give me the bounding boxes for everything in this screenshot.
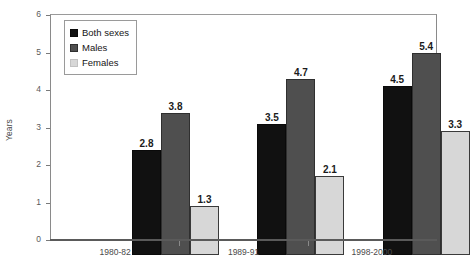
legend-item-label: Females (82, 57, 118, 68)
x-axis-category-label: 1998-2000 (352, 247, 393, 257)
x-axis-category-label: 1989-91 (228, 247, 259, 257)
y-axis-tick-label: 0 (36, 234, 41, 244)
legend-swatch-icon (70, 59, 78, 67)
bar-value-label: 1.3 (198, 194, 212, 205)
bar[interactable]: 2.1 (315, 176, 344, 255)
chart-legend: Both sexesMalesFemales (64, 20, 137, 75)
legend-item[interactable]: Males (70, 40, 132, 55)
bar-value-label: 3.8 (169, 101, 183, 112)
x-axis-tick-mark (308, 241, 309, 246)
bar-value-label: 4.7 (294, 67, 308, 78)
y-axis-tick-label: 6 (36, 9, 41, 19)
bar[interactable]: 1.3 (190, 206, 219, 255)
y-axis-tick-label: 5 (36, 47, 41, 57)
bar[interactable]: 3.8 (161, 113, 190, 256)
bar[interactable]: 2.8 (132, 150, 161, 255)
bar[interactable]: 4.7 (286, 79, 315, 255)
legend-item[interactable]: Females (70, 55, 132, 70)
bar-value-label: 3.5 (265, 112, 279, 123)
bar-value-label: 4.5 (390, 74, 404, 85)
bars-layer: 2.83.81.33.54.72.14.55.43.3 (102, 30, 474, 255)
bar-group: 3.54.72.1 (257, 30, 344, 255)
y-axis-tick-label: 2 (36, 159, 41, 169)
bar-group: 4.55.43.3 (383, 30, 470, 255)
y-axis-tick-label: 4 (36, 84, 41, 94)
bar-value-label: 5.4 (419, 41, 433, 52)
legend-swatch-icon (70, 44, 78, 52)
x-axis-category-label: 1980-82 (100, 247, 131, 257)
bar[interactable]: 3.5 (257, 124, 286, 255)
bar-group: 2.83.81.3 (132, 30, 219, 255)
legend-item-label: Both sexes (82, 27, 129, 38)
y-axis-tick-label: 1 (36, 197, 41, 207)
bar-value-label: 2.8 (140, 138, 154, 149)
x-axis-tick-mark (179, 241, 180, 246)
bar-value-label: 2.1 (323, 164, 337, 175)
bar[interactable]: 3.3 (441, 131, 470, 255)
legend-swatch-icon (70, 29, 78, 37)
legend-item-label: Males (82, 42, 107, 53)
y-axis-title: Years (4, 100, 14, 160)
bar[interactable]: 5.4 (412, 53, 441, 256)
bar-value-label: 3.3 (448, 119, 462, 130)
legend-item[interactable]: Both sexes (70, 25, 132, 40)
y-axis-tick-label: 3 (36, 122, 41, 132)
bar[interactable]: 4.5 (383, 86, 412, 255)
